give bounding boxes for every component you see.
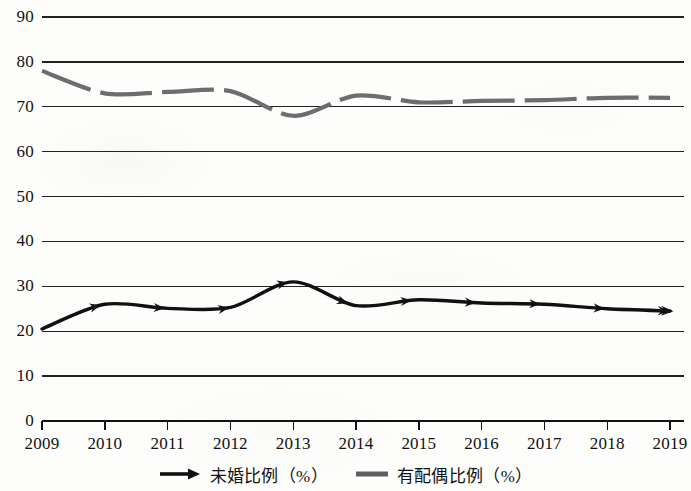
y-tick-label: 80 xyxy=(0,53,34,70)
x-tick-label: 2012 xyxy=(202,435,258,452)
y-tick-label: 30 xyxy=(0,277,34,294)
thick-dash-icon xyxy=(354,466,390,482)
y-tick-label: 40 xyxy=(0,232,34,249)
series-line-unmarried xyxy=(42,278,674,329)
legend-label-married: 有配偶比例（%） xyxy=(397,462,533,487)
y-tick-label: 50 xyxy=(0,188,34,205)
x-tick-label: 2015 xyxy=(391,435,447,452)
axes-group xyxy=(42,421,684,430)
x-tick-label: 2014 xyxy=(328,435,384,452)
chart-figure: 0102030405060708090 20092010201120122013… xyxy=(0,0,691,491)
legend-item-married: 有配偶比例（%） xyxy=(354,462,533,487)
y-tick-label: 0 xyxy=(0,412,34,429)
legend-item-unmarried: 未婚比例（%） xyxy=(159,462,328,487)
x-tick-label: 2017 xyxy=(516,435,572,452)
legend-label-unmarried: 未婚比例（%） xyxy=(210,462,328,487)
line-chart-svg xyxy=(0,0,691,491)
y-tick-label: 60 xyxy=(0,143,34,160)
x-tick-label: 2018 xyxy=(579,435,635,452)
y-tick-label: 90 xyxy=(0,8,34,25)
arrow-line-icon xyxy=(159,466,203,482)
series-line-married xyxy=(42,71,670,116)
y-tick-label: 20 xyxy=(0,322,34,339)
x-tick-label: 2009 xyxy=(14,435,70,452)
x-tick-label: 2010 xyxy=(77,435,133,452)
x-axis-ticks-group xyxy=(42,421,670,430)
plot-area: 0102030405060708090 20092010201120122013… xyxy=(0,0,691,491)
x-tick-label: 2019 xyxy=(642,435,691,452)
gridlines-group xyxy=(42,17,684,376)
chart-legend: 未婚比例（%） 有配偶比例（%） xyxy=(0,459,691,489)
y-tick-label: 10 xyxy=(0,367,34,384)
y-tick-label: 70 xyxy=(0,98,34,115)
x-tick-label: 2016 xyxy=(454,435,510,452)
x-tick-label: 2011 xyxy=(140,435,196,452)
x-tick-label: 2013 xyxy=(265,435,321,452)
